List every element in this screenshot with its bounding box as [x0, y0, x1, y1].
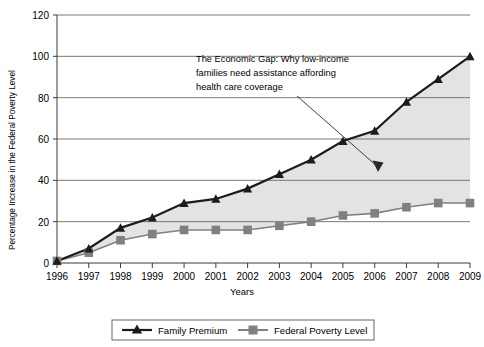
- data-point-federal-poverty-level: [275, 222, 284, 231]
- y-tick-label: 20: [38, 217, 50, 228]
- square-marker-icon: [249, 326, 258, 335]
- x-tick-label: 2009: [459, 271, 482, 282]
- x-tick-label: 1996: [46, 271, 69, 282]
- x-tick-label: 1999: [141, 271, 164, 282]
- data-point-federal-poverty-level: [402, 203, 411, 212]
- x-tick-label: 1997: [78, 271, 101, 282]
- x-tick-label: 1998: [109, 271, 132, 282]
- x-tick-label: 2007: [395, 271, 418, 282]
- y-tick-label: 0: [43, 258, 49, 269]
- annotation-line-1: The Economic Gap: Why low-income: [196, 54, 349, 64]
- data-point-federal-poverty-level: [307, 217, 316, 226]
- x-tick-label: 2006: [364, 271, 387, 282]
- y-axis-title: Percentage Increase in the Federal Pover…: [8, 70, 17, 250]
- data-point-federal-poverty-level: [339, 211, 348, 220]
- y-tick-label: 40: [38, 175, 50, 186]
- annotation-line-2: families need assistance affording: [196, 68, 336, 78]
- data-point-federal-poverty-level: [466, 199, 475, 208]
- data-point-federal-poverty-level: [434, 199, 443, 208]
- y-tick-label: 120: [32, 10, 49, 21]
- x-axis-title: Years: [230, 286, 254, 297]
- y-tick-label: 80: [38, 93, 50, 104]
- data-point-federal-poverty-level: [243, 226, 252, 235]
- x-tick-label: 2004: [300, 271, 323, 282]
- y-tick-label: 60: [38, 134, 50, 145]
- data-point-federal-poverty-level: [116, 236, 125, 245]
- x-tick-label: 2008: [427, 271, 450, 282]
- x-tick-label: 2002: [236, 271, 259, 282]
- chart-container: 020406080100120 199619971998199920002001…: [0, 0, 484, 347]
- legend-label-federal-poverty-level: Federal Poverty Level: [274, 325, 367, 336]
- annotation-line-3: health care coverage: [196, 82, 283, 92]
- x-tick-label: 2005: [332, 271, 355, 282]
- data-point-federal-poverty-level: [212, 226, 221, 235]
- chart-legend: Family Premium Federal Poverty Level: [112, 320, 374, 340]
- legend-label-family-premium: Family Premium: [158, 325, 227, 336]
- percentage-increase-line-chart: 020406080100120 199619971998199920002001…: [0, 0, 484, 347]
- x-tick-label: 2001: [205, 271, 228, 282]
- legend-item-federal-poverty-level[interactable]: Federal Poverty Level: [238, 325, 367, 336]
- data-point-federal-poverty-level: [180, 226, 189, 235]
- data-point-federal-poverty-level: [148, 230, 157, 239]
- data-point-federal-poverty-level: [370, 209, 379, 218]
- x-tick-label: 2000: [173, 271, 196, 282]
- x-tick-label: 2003: [268, 271, 291, 282]
- y-tick-label: 100: [32, 51, 49, 62]
